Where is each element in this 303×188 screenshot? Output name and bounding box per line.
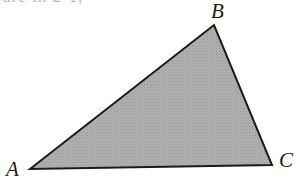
triangle-shape	[30, 25, 272, 169]
vertex-label-b: B	[211, 1, 224, 22]
figure-container: are in 2-1, A B C	[0, 0, 303, 188]
vertex-label-a: A	[6, 159, 19, 180]
vertex-label-c: C	[279, 150, 293, 171]
triangle-figure-svg	[0, 0, 303, 188]
